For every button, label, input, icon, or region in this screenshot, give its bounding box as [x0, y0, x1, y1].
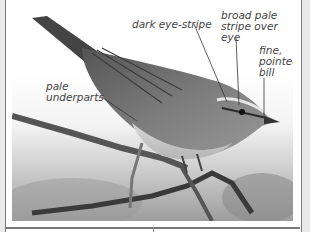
- column-divider: [153, 227, 154, 232]
- label-line: underparts: [46, 92, 104, 103]
- bird-photo: dark eye-stripe broad pale stripe over e…: [12, 8, 293, 221]
- label-text: dark eye-stripe: [132, 18, 212, 30]
- annotation-pale-underparts: pale underparts: [46, 81, 104, 103]
- label-line: bill: [259, 67, 293, 78]
- annotation-dark-eye-stripe: dark eye-stripe: [132, 19, 212, 30]
- label-line: eye: [221, 32, 278, 43]
- annotation-fine-pointed-bill: fine, pointed bill: [259, 45, 293, 78]
- annotation-broad-pale-stripe: broad pale stripe over eye: [221, 10, 278, 43]
